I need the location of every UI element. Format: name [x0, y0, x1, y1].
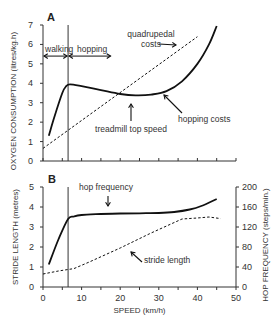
quadrupedal-arrow-shaft [159, 44, 176, 45]
walking-label: walking [44, 44, 74, 54]
y-tick-label-a: 7 [28, 20, 33, 30]
stride-length-line [43, 217, 221, 274]
y-tick-label-b: 2 [29, 242, 34, 252]
y-tick-label-a: 5 [28, 59, 33, 69]
stride-length-label: stride length [144, 255, 191, 265]
quadrupedal-costs-label: costs [141, 39, 161, 49]
y-tick-label-b: 0 [29, 282, 34, 292]
y-tick-label-b: 5 [29, 182, 34, 192]
hop-frequency-label: hop frequency [79, 182, 134, 192]
y2-tick-label-b: 120 [242, 222, 257, 232]
y2-tick-label-b: 80 [242, 242, 252, 252]
y-tick-label-b: 3 [29, 222, 34, 232]
y2-tick-label-b: 40 [242, 262, 252, 272]
y2-axis-label-b: HOP FREQUENCY (steps/min.) [261, 188, 270, 302]
x-tick-label: 30 [154, 293, 164, 303]
x-axis-label: SPEED (km/h) [113, 306, 165, 315]
y-tick-label-a: 0 [28, 156, 33, 166]
y-tick-label-a: 1 [28, 137, 33, 147]
y-tick-label-a: 6 [28, 39, 33, 49]
y2-tick-label-b: 200 [242, 182, 257, 192]
panel-a-oxygen-consumption: A01234567OXYGEN CONSUMPTION (litres/kg.h… [9, 11, 236, 170]
hopping-costs-label: hopping costs [178, 114, 230, 124]
panel-b-stride-hop: B0123450408012016020001020304050SPEED (k… [11, 173, 270, 315]
chart-figure: A01234567OXYGEN CONSUMPTION (litres/kg.h… [0, 0, 276, 326]
hop-frequency-curve [49, 199, 217, 265]
x-tick-label: 0 [40, 293, 45, 303]
treadmill-top-speed-label: treadmill top speed [95, 124, 167, 134]
x-tick-label: 40 [192, 293, 202, 303]
stride-length-arrow-shaft [131, 252, 142, 262]
hopping-label: hopping [77, 44, 108, 54]
hopping-costs-arrow-shaft [164, 95, 182, 113]
quadrupedal-label: quadrupedal [127, 29, 174, 39]
y-tick-label-b: 4 [29, 202, 34, 212]
y-tick-label-a: 4 [28, 78, 33, 88]
panel-b-label: B [48, 173, 56, 185]
panel-a-label: A [47, 11, 55, 23]
x-tick-label: 50 [231, 293, 241, 303]
x-tick-label: 10 [77, 293, 87, 303]
y2-tick-label-b: 0 [242, 282, 247, 292]
y-axis-label-b: STRIDE LENGTH (metres) [11, 189, 20, 285]
y-axis-label-a: OXYGEN CONSUMPTION (litres/kg.h) [9, 32, 18, 171]
y-tick-label-a: 2 [28, 117, 33, 127]
y-tick-label-b: 1 [29, 262, 34, 272]
y2-tick-label-b: 160 [242, 202, 257, 212]
x-tick-label: 20 [115, 293, 125, 303]
y-tick-label-a: 3 [28, 98, 33, 108]
